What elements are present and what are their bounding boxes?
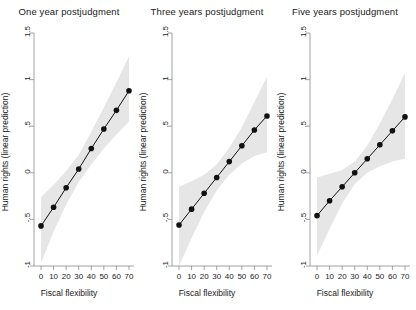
data-point-marker <box>176 222 182 228</box>
data-point-marker <box>114 108 120 114</box>
data-point-marker <box>352 170 358 176</box>
chart-panel-2: Three years postjudgmentHuman rights (li… <box>138 0 276 310</box>
data-point-marker <box>63 185 69 191</box>
figure-panel-group: One year postjudgmentHuman rights (linea… <box>0 0 416 310</box>
data-point-marker <box>377 142 383 148</box>
data-point-marker <box>390 128 396 134</box>
data-point-marker <box>201 191 207 197</box>
data-point-marker <box>126 88 132 94</box>
data-point-marker <box>327 198 333 204</box>
data-point-marker <box>314 213 320 219</box>
plot-area <box>138 0 276 310</box>
data-point-marker <box>88 146 94 152</box>
data-point-marker <box>339 184 345 190</box>
data-point-marker <box>252 127 258 133</box>
data-point-marker <box>76 166 82 172</box>
data-point-marker <box>239 143 245 149</box>
data-point-marker <box>402 114 408 120</box>
plot-area <box>276 0 414 310</box>
confidence-band <box>317 73 405 256</box>
chart-panel-1: One year postjudgmentHuman rights (linea… <box>0 0 138 310</box>
plot-area <box>0 0 138 310</box>
data-point-marker <box>226 159 232 165</box>
confidence-band <box>179 77 267 266</box>
data-point-marker <box>264 113 270 119</box>
data-point-marker <box>364 156 370 162</box>
data-point-marker <box>38 223 44 229</box>
data-point-marker <box>189 206 195 212</box>
data-point-marker <box>51 204 57 210</box>
chart-panel-3: Five years postjudgmentHuman rights (lin… <box>276 0 414 310</box>
data-point-marker <box>101 126 107 132</box>
data-point-marker <box>214 175 220 181</box>
